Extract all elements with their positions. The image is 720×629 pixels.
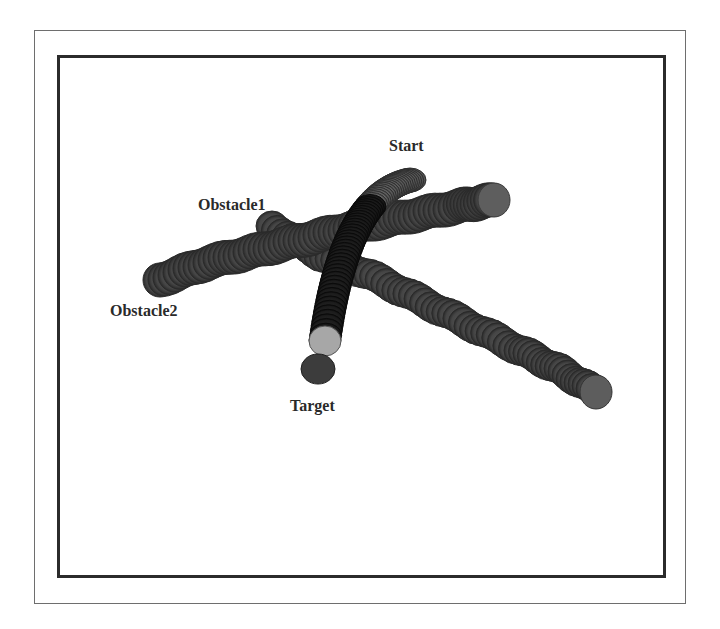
end-discs (301, 326, 341, 384)
start-label: Start (389, 137, 424, 155)
obstacle2-label: Obstacle2 (110, 302, 178, 320)
trajectory-scene (0, 0, 720, 629)
target-label: Target (290, 397, 335, 415)
obstacle1-label: Obstacle1 (198, 196, 266, 214)
